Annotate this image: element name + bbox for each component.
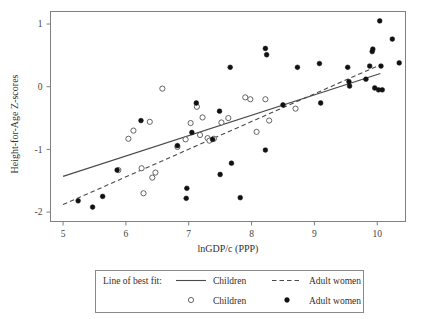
y-axis-title: Height-for-Age Z-scores [9,74,20,173]
fit-line-adult-women [63,65,380,205]
series-children-points [116,86,298,196]
data-point [139,166,144,171]
x-tick-label-5: 5 [61,229,66,239]
x-axis-ticks: 5678910 [61,222,383,239]
data-point [184,196,189,201]
data-point [380,87,385,92]
data-point [183,137,188,142]
data-point [218,172,223,177]
chart-figure: 5678910 10-1-2 lnGDP/c (PPP) Height-for-… [0,0,421,319]
data-point [197,132,202,137]
legend-filled-circle-swatch [285,298,290,303]
data-point [150,175,155,180]
data-point [194,101,199,106]
data-point [345,65,350,70]
legend-open-circle-swatch [188,297,193,302]
fit-lines-group [63,65,380,205]
data-point [377,19,382,24]
x-tick-label-6: 6 [124,229,129,239]
y-tick-label-1: 1 [38,19,43,29]
data-point [254,129,259,134]
data-point [175,143,180,148]
data-point [228,65,233,70]
data-point [317,61,322,66]
data-point [318,101,323,106]
data-point [210,137,215,142]
data-point [367,64,372,69]
data-point [147,119,152,124]
x-tick-label-8: 8 [249,229,254,239]
data-point [263,46,268,51]
legend-label-fit-children: Children [213,276,246,286]
chart-legend: Line of best fit: Children Adult women C… [96,271,364,313]
data-point [184,186,189,191]
x-tick-label-10: 10 [372,229,382,239]
data-point [238,195,243,200]
data-point [153,170,158,175]
data-point [397,61,402,66]
data-point [131,128,136,133]
data-point [243,95,248,100]
data-point [139,118,144,123]
y-tick-label--2: -2 [35,207,43,217]
data-point [189,130,194,135]
data-point [76,198,81,203]
data-point [281,103,286,108]
data-point [263,97,268,102]
legend-label-marker-adult-women: Adult women [309,296,361,306]
data-point [370,47,375,52]
series-adult-women-points [76,19,402,210]
data-point [390,37,395,42]
data-point [347,79,352,84]
y-tick-label-0: 0 [38,82,43,92]
x-axis-title: lnGDP/c (PPP) [198,243,259,255]
data-point [295,65,300,70]
data-point [267,118,272,123]
data-point [217,109,222,114]
data-point [90,205,95,210]
data-point [100,194,105,199]
data-point [160,86,165,91]
data-point [264,52,269,57]
data-point [115,168,120,173]
data-point [126,136,131,141]
data-point [379,64,384,69]
data-point [229,161,234,166]
scatter-plot: 5678910 10-1-2 lnGDP/c (PPP) Height-for-… [0,0,421,319]
data-point [188,120,193,125]
data-point [248,97,253,102]
x-tick-label-7: 7 [186,229,191,239]
legend-line-of-best-fit-label: Line of best fit: [103,276,162,286]
data-point [347,84,352,89]
data-point [219,120,224,125]
data-point [141,191,146,196]
y-axis-ticks: 10-1-2 [35,19,51,217]
data-point [200,115,205,120]
x-tick-label-9: 9 [312,229,317,239]
legend-label-fit-adult-women: Adult women [309,276,361,286]
data-point [364,77,369,82]
legend-label-marker-children: Children [213,296,246,306]
y-tick-label--1: -1 [35,145,43,155]
data-point [263,148,268,153]
data-point [293,106,298,111]
data-point [226,115,231,120]
